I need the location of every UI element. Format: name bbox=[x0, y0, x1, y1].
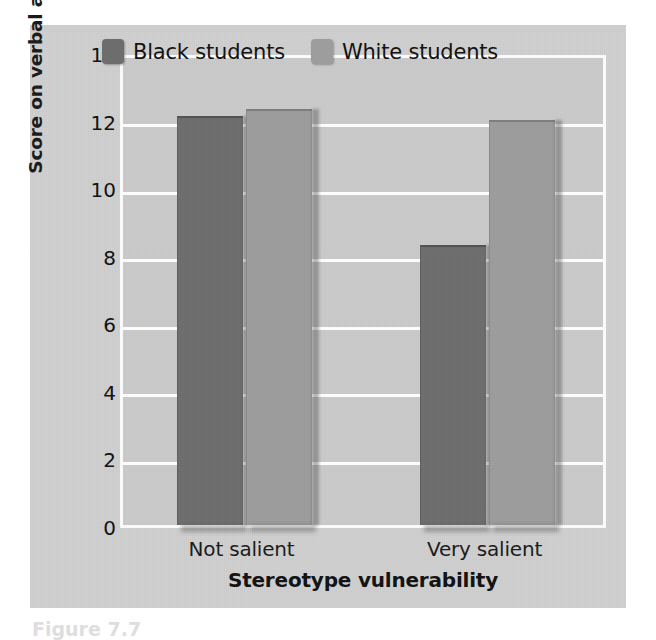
bar bbox=[246, 109, 312, 525]
legend-swatch-icon bbox=[102, 39, 124, 64]
bar-shadow bbox=[493, 525, 559, 532]
y-tick-label: 12 bbox=[76, 113, 116, 133]
caption-fragment: Figure 7.7 bbox=[32, 618, 141, 640]
bar-shadow bbox=[250, 525, 316, 532]
y-tick-label: 0 bbox=[76, 518, 116, 538]
legend-entry: Black students bbox=[102, 39, 285, 64]
bar-side-shadow bbox=[312, 109, 319, 525]
y-axis-title: Score on verbal ability test bbox=[25, 0, 49, 175]
x-tick-label: Very salient bbox=[427, 537, 542, 561]
legend-label: White students bbox=[342, 40, 498, 64]
legend-label: Black students bbox=[133, 40, 285, 64]
bar-shadow bbox=[424, 525, 490, 532]
x-axis-title: Stereotype vulnerability bbox=[120, 568, 606, 592]
bar bbox=[489, 120, 555, 525]
chart-legend: Black studentsWhite students bbox=[102, 39, 498, 64]
legend-swatch-icon bbox=[311, 39, 333, 64]
plot-area bbox=[120, 55, 606, 528]
x-tick-label: Not salient bbox=[189, 537, 295, 561]
y-tick-label: 8 bbox=[76, 248, 116, 268]
bar-shadow bbox=[181, 525, 247, 532]
figure-panel: Score on verbal ability test 02468101214… bbox=[30, 25, 626, 608]
y-axis-tick-labels: 02468101214 bbox=[58, 25, 116, 608]
bar bbox=[177, 116, 243, 525]
y-tick-label: 4 bbox=[76, 383, 116, 403]
y-tick-label: 6 bbox=[76, 315, 116, 335]
x-axis-tick-labels: Not salientVery salient bbox=[120, 537, 606, 567]
bar-side-shadow bbox=[555, 120, 562, 525]
legend-entry: White students bbox=[311, 39, 498, 64]
y-tick-label: 10 bbox=[76, 180, 116, 200]
bar bbox=[420, 245, 486, 525]
y-tick-label: 2 bbox=[76, 450, 116, 470]
